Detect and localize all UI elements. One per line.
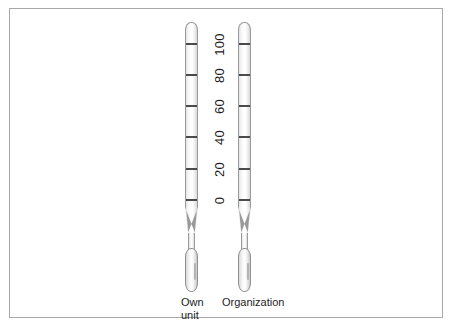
caption-own-unit: Own unit — [181, 296, 221, 321]
scale-tick — [186, 43, 197, 45]
scale-tick — [186, 199, 197, 201]
thermometer-bulb — [185, 248, 198, 292]
scale-tick — [239, 74, 250, 76]
scale-tick — [239, 136, 250, 138]
thermometer-bulb — [238, 248, 251, 292]
scale-tick — [239, 168, 250, 170]
thermometer-tube — [238, 22, 251, 207]
thermometer-tube — [185, 22, 198, 207]
caption-organization: Organization — [222, 296, 312, 309]
thermometer-neck — [241, 233, 248, 249]
bulb-highlight — [247, 263, 249, 280]
scale-tick — [239, 43, 250, 45]
scale-tick — [186, 168, 197, 170]
bulb-highlight — [194, 263, 196, 280]
scale-tick — [186, 105, 197, 107]
scale-tick — [239, 105, 250, 107]
thermometer-figure: 100 80 60 40 20 0 Own unit Organization — [0, 0, 455, 334]
thermometer-neck — [188, 233, 195, 249]
scale-tick — [239, 199, 250, 201]
scale-label-0: 0 — [212, 181, 227, 221]
scale-tick — [186, 136, 197, 138]
scale-tick — [186, 74, 197, 76]
